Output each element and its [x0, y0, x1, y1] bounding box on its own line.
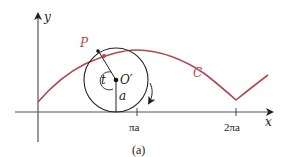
center-point [114, 78, 119, 83]
center-label: O′ [120, 73, 133, 87]
curve-point-dot [102, 54, 106, 58]
figure-caption: (a) [132, 143, 145, 157]
y-axis-label: y [43, 10, 51, 24]
tick-label-2pi-a: 2πa [224, 121, 240, 133]
curve-c-label: C [193, 66, 202, 80]
rotation-arrow-icon [149, 83, 152, 103]
cycloid-curve [38, 50, 268, 102]
cycloid-diagram: y x πa 2πa P C O′ t a (a) [0, 0, 286, 157]
point-p-dot [96, 49, 100, 53]
x-axis-label: x [265, 115, 272, 129]
radius-label: a [119, 89, 126, 103]
angle-label: t [101, 73, 106, 87]
x-axis [15, 108, 272, 116]
point-p-label: P [79, 36, 89, 50]
tick-label-pi-a: πa [129, 121, 140, 133]
